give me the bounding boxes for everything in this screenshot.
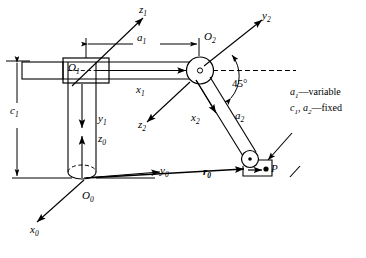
legend-dash-1: — bbox=[299, 86, 309, 97]
label-z1: z1 bbox=[139, 4, 147, 18]
label-a1-dimension: a1 bbox=[137, 32, 146, 46]
label-z2: z2 bbox=[138, 119, 146, 133]
label-point-p: P bbox=[271, 163, 278, 174]
label-x1: x1 bbox=[136, 84, 145, 98]
legend-line-variable: a1—variable bbox=[290, 85, 342, 101]
axis-arrow-x0 bbox=[37, 180, 84, 222]
diagram-canvas bbox=[0, 0, 366, 258]
point-p-marker bbox=[263, 166, 268, 171]
label-y2: y2 bbox=[262, 10, 271, 24]
label-r0-vector: r0 bbox=[203, 166, 211, 180]
axis-arrow-z1 bbox=[72, 18, 143, 86]
legend-symbol-c1: c1 bbox=[290, 102, 298, 113]
label-o2: O2 bbox=[204, 31, 216, 45]
label-z0: z0 bbox=[98, 133, 106, 147]
revolute-joint-wrist bbox=[242, 151, 273, 177]
legend-block: a1—variable c1, a2—fixed bbox=[290, 85, 342, 118]
label-o1: O1 bbox=[68, 62, 80, 76]
legend-text-fixed: fixed bbox=[321, 102, 342, 113]
label-c1-dimension: c1 bbox=[10, 105, 19, 119]
axis-arrow-x2 bbox=[196, 80, 216, 113]
label-y0: y0 bbox=[160, 165, 169, 179]
label-o0: O0 bbox=[82, 190, 94, 204]
legend-line-fixed: c1, a2—fixed bbox=[290, 101, 342, 117]
legend-symbol-a1: a1 bbox=[290, 86, 299, 97]
axis-arrow-z2 bbox=[147, 82, 190, 122]
position-vector-r0 bbox=[86, 169, 262, 178]
legend-text-variable: variable bbox=[309, 86, 341, 97]
label-x0: x0 bbox=[30, 224, 39, 238]
label-angle-45: 45° bbox=[232, 78, 247, 89]
legend-dash-2: — bbox=[311, 102, 321, 113]
label-x2: x2 bbox=[191, 112, 200, 126]
label-a2-dimension: a2 bbox=[235, 110, 244, 124]
robot-kinematic-diagram: z1 a1 O2 y2 O1 x1 45° z2 x2 a2 y1 z0 c1 … bbox=[0, 0, 366, 258]
label-y1: y1 bbox=[98, 113, 107, 127]
